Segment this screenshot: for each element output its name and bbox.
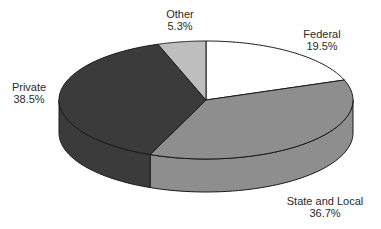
label-private-name: Private bbox=[12, 81, 46, 93]
label-federal-name: Federal bbox=[303, 28, 340, 40]
label-other-pct: 5.3% bbox=[166, 20, 194, 32]
label-federal-pct: 19.5% bbox=[303, 40, 340, 52]
label-federal: Federal 19.5% bbox=[303, 28, 340, 52]
label-state-and-local: State and Local 36.7% bbox=[287, 195, 363, 219]
label-private: Private 38.5% bbox=[12, 81, 46, 105]
label-state-and-local-pct: 36.7% bbox=[287, 207, 363, 219]
label-state-and-local-name: State and Local bbox=[287, 195, 363, 207]
pie-top-faces bbox=[59, 41, 353, 159]
label-other-name: Other bbox=[166, 8, 194, 20]
label-other: Other 5.3% bbox=[166, 8, 194, 32]
label-private-pct: 38.5% bbox=[12, 93, 46, 105]
